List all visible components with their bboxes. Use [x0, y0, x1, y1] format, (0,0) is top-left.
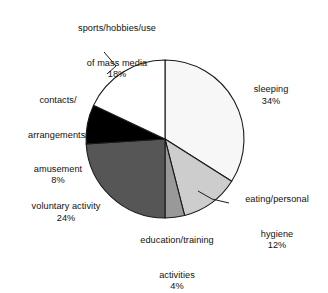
pie-label-percent: 18% [44, 69, 190, 80]
pie-label-education-training-activities: education/training activities 4% [118, 224, 236, 293]
pie-label-contacts-arrangements-amusement: contacts/ arrangements/ amusement 8% [4, 84, 112, 198]
pie-label-line1: education/training [140, 235, 213, 245]
pie-label-line1: contacts/ [39, 95, 76, 105]
pie-label-line2: arrangements/ [28, 130, 88, 140]
pie-label-line2: activities [159, 270, 195, 280]
pie-label-percent: 8% [4, 175, 112, 186]
pie-label-line2: of mass media [87, 58, 147, 68]
pie-label-line1: sports/hobbies/use [78, 23, 156, 33]
pie-label-line1: eating/personal [245, 194, 309, 204]
pie-label-sports-hobbies-mass-media: sports/hobbies/use of mass media 18% [44, 12, 190, 92]
pie-label-eating-personal-hygiene: eating/personal hygiene 12% [228, 183, 326, 263]
pie-label-percent: 34% [232, 96, 310, 107]
pie-label-sleeping: sleeping 34% [232, 73, 310, 119]
pie-label-line1: voluntary activity [32, 201, 101, 211]
pie-label-line1: sleeping [254, 84, 289, 94]
pie-label-voluntary-activity: voluntary activity 24% [8, 190, 124, 236]
pie-label-line2: hygiene [261, 229, 294, 239]
pie-label-line3: amusement [34, 164, 82, 174]
pie-label-percent: 4% [118, 281, 236, 292]
pie-label-percent: 12% [228, 240, 326, 251]
pie-label-percent: 24% [8, 213, 124, 224]
